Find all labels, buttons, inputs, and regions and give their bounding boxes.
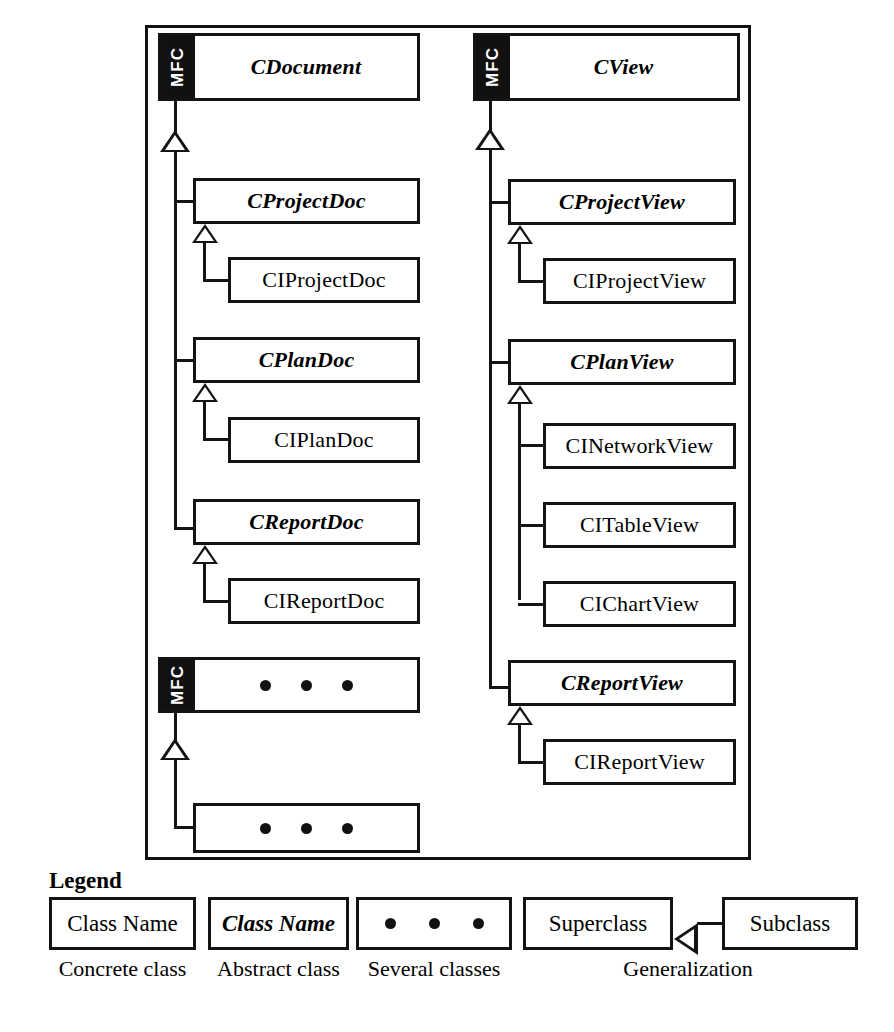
- class-box-cireportview[interactable]: CIReportView: [543, 739, 736, 785]
- mfc-framework-tab: MFC: [161, 660, 195, 710]
- class-name-cplanview: CPlanView: [570, 351, 673, 373]
- legend-title: Legend: [49, 868, 122, 894]
- connector-cprojectdoc-trunk: [203, 242, 206, 282]
- generalization-triangle-cview: [475, 128, 505, 150]
- class-name-cplandoc: CPlanDoc: [259, 349, 355, 371]
- several-classes-dots: [385, 918, 484, 929]
- class-name-cinetworkview: CINetworkView: [566, 435, 714, 457]
- class-box-cichartview[interactable]: CIChartView: [543, 581, 736, 627]
- connector-creportdoc-trunk: [203, 563, 206, 603]
- legend-caption-abstract-class: Abstract class: [203, 956, 354, 982]
- legend-box-label-superclass: Superclass: [549, 911, 647, 937]
- class-name-cireportview: CIReportView: [574, 751, 705, 773]
- class-box-cplanview[interactable]: CPlanView: [508, 339, 736, 385]
- mfc-framework-tab: MFC: [161, 36, 195, 98]
- connector-creportview-to-cireportview: [518, 761, 545, 764]
- class-box-several-classes-sub[interactable]: [193, 803, 420, 853]
- dot-icon: [301, 680, 312, 691]
- connector-cplandoc-to-ciplandoc: [203, 438, 230, 441]
- class-name-cdocument: CDocument: [251, 56, 362, 78]
- class-box-cdocument[interactable]: MFC CDocument: [158, 33, 420, 101]
- legend-box-subclass: Subclass: [722, 897, 858, 950]
- class-name-cview: CView: [594, 56, 654, 78]
- dot-icon: [260, 680, 271, 691]
- connector-creportview-trunk: [518, 724, 521, 764]
- connector-cdocument-trunk-upper: [174, 100, 177, 134]
- class-name-cprojectdoc: CProjectDoc: [247, 190, 365, 212]
- connector-cplanview-to-citableview: [518, 524, 545, 527]
- class-box-ciplandoc[interactable]: CIPlanDoc: [228, 417, 420, 463]
- class-name-ciplandoc: CIPlanDoc: [274, 429, 374, 451]
- legend: Legend Class Name Concrete class Class N…: [0, 868, 894, 1032]
- connector-several-mfc-trunk-lower: [174, 759, 177, 829]
- connector-cprojectdoc-to-ciprojectdoc: [203, 279, 230, 282]
- dot-icon: [342, 680, 353, 691]
- class-box-cview[interactable]: MFC CView: [473, 33, 740, 101]
- class-box-creportdoc[interactable]: CReportDoc: [193, 499, 420, 545]
- generalization-triangle-cprojectdoc: [192, 224, 218, 243]
- several-classes-dots: [260, 823, 353, 834]
- generalization-triangle-cplandoc: [192, 383, 218, 402]
- connector-cplanview-to-cinetworkview: [518, 444, 545, 447]
- class-name-cichartview: CIChartView: [580, 593, 699, 615]
- connector-cprojectview-to-ciprojectview: [518, 280, 545, 283]
- class-name-cprojectview: CProjectView: [559, 191, 685, 213]
- generalization-triangle-cprojectview: [507, 225, 533, 244]
- several-classes-dots: [260, 680, 353, 691]
- dot-icon: [342, 823, 353, 834]
- class-name-cireportdoc: CIReportDoc: [264, 590, 385, 612]
- legend-caption-generalization: Generalization: [573, 956, 803, 982]
- class-box-several-classes-mfc[interactable]: MFC: [158, 657, 420, 713]
- mfc-tab-label: MFC: [168, 665, 188, 705]
- connector-cview-trunk-lower: [489, 149, 492, 689]
- generalization-triangle-creportview: [507, 706, 533, 725]
- class-box-cinetworkview[interactable]: CINetworkView: [543, 423, 736, 469]
- mfc-tab-label: MFC: [168, 47, 188, 87]
- generalization-triangle-creportdoc: [192, 545, 218, 564]
- mfc-framework-tab: MFC: [476, 36, 510, 98]
- generalization-triangle-cdocument: [160, 130, 190, 152]
- generalization-triangle-several-classes: [160, 738, 190, 760]
- connector-cplandoc-trunk: [203, 401, 206, 441]
- class-name-creportdoc: CReportDoc: [249, 511, 363, 533]
- class-box-ciprojectdoc[interactable]: CIProjectDoc: [228, 257, 420, 303]
- class-box-creportview[interactable]: CReportView: [508, 660, 736, 706]
- generalization-triangle-cplanview: [507, 385, 533, 404]
- legend-box-abstract-class: Class Name: [208, 897, 349, 950]
- class-name-ciprojectview: CIProjectView: [573, 270, 706, 292]
- generalization-triangle-legend: [674, 923, 698, 955]
- class-name-creportview: CReportView: [561, 672, 683, 694]
- connector-cplanview-trunk: [518, 403, 521, 600]
- class-box-cprojectview[interactable]: CProjectView: [508, 179, 736, 225]
- legend-caption-several-classes: Several classes: [353, 956, 515, 982]
- class-box-cprojectdoc[interactable]: CProjectDoc: [193, 178, 420, 224]
- connector-creportdoc-to-cireportdoc: [203, 600, 230, 603]
- class-name-citableview: CITableView: [580, 514, 699, 536]
- dot-icon: [260, 823, 271, 834]
- connector-cdocument-trunk-lower: [174, 151, 177, 529]
- legend-box-label-abstract: Class Name: [222, 911, 335, 937]
- dot-icon: [473, 918, 484, 929]
- class-name-ciprojectdoc: CIProjectDoc: [262, 269, 385, 291]
- connector-legend-generalization: [697, 922, 723, 925]
- legend-box-several-classes: [356, 897, 512, 950]
- dot-icon: [429, 918, 440, 929]
- class-box-cireportdoc[interactable]: CIReportDoc: [228, 578, 420, 624]
- class-box-cplandoc[interactable]: CPlanDoc: [193, 337, 420, 383]
- dot-icon: [385, 918, 396, 929]
- legend-box-label-subclass: Subclass: [750, 911, 831, 937]
- connector-cprojectview-trunk: [518, 243, 521, 283]
- legend-box-superclass: Superclass: [523, 897, 673, 950]
- connector-cplanview-to-cichartview: [518, 603, 545, 606]
- dot-icon: [301, 823, 312, 834]
- class-box-citableview[interactable]: CITableView: [543, 502, 736, 548]
- legend-caption-concrete-class: Concrete class: [49, 956, 196, 982]
- legend-box-label-concrete: Class Name: [67, 911, 178, 937]
- legend-box-concrete-class: Class Name: [49, 897, 196, 950]
- mfc-tab-label: MFC: [483, 47, 503, 87]
- class-box-ciprojectview[interactable]: CIProjectView: [543, 258, 736, 304]
